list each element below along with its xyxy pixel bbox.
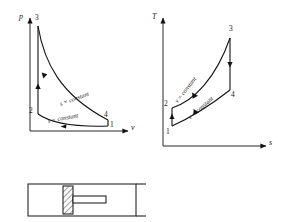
ts-point-3-label: 3 bbox=[229, 25, 233, 33]
pv-diagram-group bbox=[30, 18, 128, 131]
pv-process-3-4 bbox=[38, 26, 108, 120]
piston-rod bbox=[73, 196, 106, 203]
ts-diagram-group bbox=[163, 18, 266, 146]
figure-canvas bbox=[0, 0, 284, 222]
ts-x-axis-label: s bbox=[269, 139, 272, 147]
ts-point-1-label: 1 bbox=[166, 128, 170, 136]
pv-point-4-label: 4 bbox=[104, 111, 108, 119]
ts-y-axis-label: T bbox=[152, 13, 156, 21]
piston-cylinder-group bbox=[28, 184, 146, 216]
pv-x-axis-label: v bbox=[131, 124, 135, 132]
pv-point-1-label: 1 bbox=[110, 121, 114, 129]
pv-point-3-label: 3 bbox=[35, 14, 39, 22]
pv-arrow-3-4 bbox=[42, 72, 48, 78]
ts-arrow-3-4 bbox=[227, 62, 232, 68]
pv-arrow-2-3 bbox=[35, 84, 40, 90]
ts-arrow-2-3 bbox=[192, 93, 198, 99]
ts-arrow-1-2 bbox=[170, 114, 175, 120]
pv-arrow-1-2 bbox=[61, 124, 67, 128]
piston bbox=[63, 186, 73, 214]
ts-point-4-label: 4 bbox=[231, 91, 235, 99]
otto-cycle-figure: p v 3 2 4 1 s = constant s = constant T … bbox=[0, 0, 284, 222]
ts-point-2-label: 2 bbox=[164, 100, 168, 108]
pv-point-2-label: 2 bbox=[29, 107, 33, 115]
pv-y-axis-label: p bbox=[19, 13, 23, 21]
